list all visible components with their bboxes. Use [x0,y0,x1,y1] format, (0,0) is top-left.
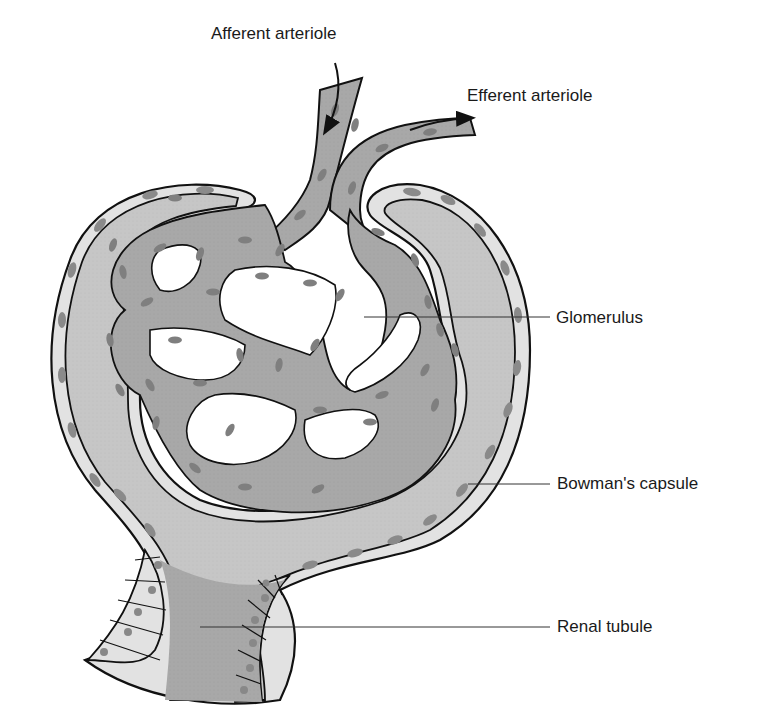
label-renal-tubule: Renal tubule [557,618,652,635]
label-glomerulus: Glomerulus [556,309,643,326]
label-efferent-arteriole: Efferent arteriole [467,87,592,104]
label-afferent-arteriole: Afferent arteriole [211,25,336,42]
label-bowmans-capsule: Bowman's capsule [557,475,698,492]
renal-corpuscle-diagram [0,0,761,722]
glomerulus [105,78,475,512]
